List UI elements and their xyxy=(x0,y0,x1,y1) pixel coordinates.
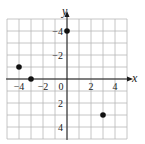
x-tick-label: 0 xyxy=(59,81,64,92)
x-tick-label: 4 xyxy=(113,81,118,92)
y-tick-label: 4 xyxy=(58,122,63,133)
scatter-plot: −4−202442−2−4 x y xyxy=(0,0,145,144)
coordinate-plane-chart: −4−202442−2−4 x y xyxy=(0,0,145,144)
data-point xyxy=(28,76,34,82)
data-point xyxy=(64,28,70,34)
y-tick-label: −2 xyxy=(52,50,63,61)
x-tick-label: −2 xyxy=(38,81,49,92)
data-point xyxy=(100,112,106,118)
x-tick-label: −4 xyxy=(14,81,25,92)
y-axis-label: y xyxy=(61,4,68,18)
y-tick-label: 2 xyxy=(58,98,63,109)
x-tick-label: 2 xyxy=(89,81,94,92)
data-point xyxy=(16,64,22,70)
x-axis-label: x xyxy=(131,71,138,85)
y-tick-label: −4 xyxy=(52,26,63,37)
